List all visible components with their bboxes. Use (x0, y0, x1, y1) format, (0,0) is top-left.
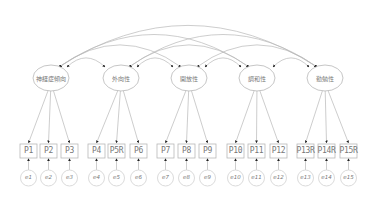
observed-variable-p8 (178, 144, 195, 158)
covariance-arcs (59, 25, 317, 67)
observed-variable-p11 (248, 144, 265, 158)
error-term-e9 (200, 170, 216, 186)
latent-factor-f3 (171, 65, 207, 91)
loading-arrow-p3 (53, 90, 69, 143)
observed-variable-p2 (40, 144, 57, 158)
observed-variable-p12 (270, 144, 287, 158)
loading-arrow-p5r (117, 90, 121, 143)
error-term-e12 (271, 170, 287, 186)
diagram-nodes (20, 65, 357, 186)
observed-variable-p5r (108, 144, 125, 158)
observed-variable-p4 (88, 144, 105, 158)
latent-factor-f2 (103, 65, 139, 91)
error-term-e11 (249, 170, 265, 186)
loading-arrow-p7 (166, 90, 187, 143)
error-term-e4 (89, 170, 105, 186)
error-arrows (29, 159, 349, 171)
observed-variable-p7 (157, 144, 174, 158)
latent-factor-f5 (307, 65, 343, 91)
loading-arrow-p2 (49, 90, 51, 143)
covariance-arc-f1-f2 (67, 58, 105, 67)
loading-arrow-p10 (236, 90, 255, 143)
observed-variable-p9 (199, 144, 216, 158)
latent-factor-f1 (33, 65, 69, 91)
error-term-e2 (41, 170, 57, 186)
observed-variable-p15r (340, 144, 357, 158)
loading-arrow-p9 (191, 90, 207, 143)
observed-variable-p6 (130, 144, 147, 158)
factor-loading-arrows (29, 90, 349, 143)
diagram-canvas (0, 0, 378, 197)
error-term-e15 (341, 170, 357, 186)
error-term-e13 (298, 170, 314, 186)
observed-variable-p10 (227, 144, 244, 158)
loading-arrow-p14r (325, 90, 326, 143)
error-term-e1 (21, 170, 37, 186)
observed-variable-p13r (297, 144, 314, 158)
loading-arrow-p6 (123, 90, 138, 143)
loading-arrow-p4 (97, 90, 119, 143)
loading-arrow-p13r (306, 90, 323, 143)
latent-factor-f4 (239, 65, 275, 91)
loading-arrow-p15r (328, 90, 349, 143)
error-term-e7 (158, 170, 174, 186)
sem-path-diagram: 神経症傾向外向性開放性調和性勤勉性P1e1P2e2P3e3P4e4P5Re5P6… (0, 0, 378, 197)
error-term-e5 (109, 170, 125, 186)
covariance-arc-f2-f3 (137, 58, 173, 67)
error-term-e14 (319, 170, 335, 186)
observed-variable-p14r (318, 144, 335, 158)
error-term-e10 (228, 170, 244, 186)
loading-arrow-p1 (29, 90, 49, 143)
error-term-e3 (62, 170, 78, 186)
covariance-arc-f3-f4 (205, 58, 241, 67)
error-term-e6 (131, 170, 147, 186)
observed-variable-p3 (61, 144, 78, 158)
loading-arrow-p8 (187, 90, 189, 143)
observed-variable-p1 (20, 144, 37, 158)
covariance-arc-f4-f5 (273, 58, 309, 67)
loading-arrow-p12 (260, 90, 279, 143)
error-term-e8 (179, 170, 195, 186)
